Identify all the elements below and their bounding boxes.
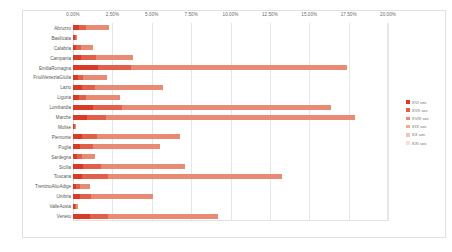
bar-segment [73,65,98,70]
bar-row [73,115,355,120]
grid-line [388,23,389,221]
bar-segment [97,134,180,139]
category-label: EmiliaRomagna [39,65,71,70]
bar-segment [80,194,91,199]
category-label: Sardegna [51,154,71,159]
category-label: Abruzzo [54,25,71,30]
bar-segment [82,134,98,139]
bar-segment [73,214,90,219]
bar-row [73,45,93,50]
bar-row [73,154,95,159]
bar-segment [93,144,160,149]
bar-row [73,144,160,149]
grid-line [231,23,232,221]
category-label: Sicilia [59,164,71,169]
x-tick-label: 10.00% [223,12,239,17]
bar-segment [80,144,93,149]
category-label: Campania [50,55,71,60]
bar-row [73,194,153,199]
bar-row [73,75,107,80]
bar-row [73,174,282,179]
legend-item[interactable]: XIX sec [406,123,448,131]
bar-segment [87,115,106,120]
bar-row [73,65,347,70]
bar-row [73,204,78,209]
bar-segment [83,75,107,80]
bar-row [73,214,218,219]
legend-label: XVIII sec [412,116,429,121]
bar-segment [82,154,95,159]
bar-segment [73,164,83,169]
category-label: Umbria [56,194,71,199]
category-label: TrentinoAltoAdige [35,184,71,189]
bar-segment [73,194,80,199]
x-tick-label: 12.50% [262,12,278,17]
x-tick-label: 5.00% [145,12,158,17]
bar-segment [90,214,109,219]
bar-row [73,124,76,129]
chart-frame [22,10,446,238]
x-tick-label: 0.00% [66,12,79,17]
category-label: Molise [58,124,71,129]
legend-item[interactable]: XVI sec [406,98,448,106]
bar-segment [73,55,81,60]
legend-item[interactable]: XXI sec [406,139,448,147]
grid-line [191,23,192,221]
bar-segment [86,95,120,100]
bar-row [73,55,133,60]
bar-segment [98,65,131,70]
bar-segment [131,65,347,70]
bar-segment [101,164,184,169]
legend-label: XXI sec [412,141,427,146]
legend-item[interactable]: XVII sec [406,106,448,114]
category-label: ValleAosta [50,204,71,209]
legend-swatch-icon [406,141,410,145]
bar-segment [73,134,82,139]
grid-line [309,23,310,221]
chart-screenshot: 0.00%2.50%5.00%7.50%10.00%12.50%15.00%17… [0,0,452,252]
bar-segment [93,105,121,110]
legend-swatch-icon [406,117,410,121]
bar-row [73,105,331,110]
bar-segment [79,25,86,30]
x-tick-label: 2.50% [106,12,119,17]
chart-legend: XVI secXVII secXVIII secXIX secXX secXXI… [406,98,448,147]
category-label: Calabria [54,45,71,50]
grid-line [270,23,271,221]
category-label: Toscana [54,174,71,179]
legend-item[interactable]: XVIII sec [406,114,448,122]
bar-segment [79,95,87,100]
bar-segment [73,105,93,110]
legend-label: XX sec [412,132,426,137]
bar-row [73,25,109,30]
legend-swatch-icon [406,108,410,112]
x-tick-label: 7.50% [184,12,197,17]
legend-swatch-icon [406,125,410,129]
grid-line [152,23,153,221]
category-label: FriuliVeneziaGiulia [33,75,71,80]
legend-item[interactable]: XX sec [406,131,448,139]
bar-segment [106,115,355,120]
category-label: Lombardia [50,105,71,110]
bar-row [73,35,77,40]
bar-segment [73,85,82,90]
bar-segment [75,124,76,129]
bar-segment [95,85,163,90]
category-label: Veneto [57,214,71,219]
bar-segment [86,25,109,30]
bar-row [73,184,90,189]
bar-segment [76,35,77,40]
bar-segment [96,55,133,60]
category-label: Puglia [58,144,71,149]
bar-segment [82,85,95,90]
category-label: Marche [56,115,71,120]
legend-label: XIX sec [412,124,427,129]
bar-segment [82,174,107,179]
bar-segment [80,184,89,189]
bar-segment [108,214,217,219]
bar-row [73,95,120,100]
category-label: Liguria [57,95,71,100]
bar-row [73,85,163,90]
category-label: Lazio [60,85,71,90]
bar-segment [108,174,283,179]
